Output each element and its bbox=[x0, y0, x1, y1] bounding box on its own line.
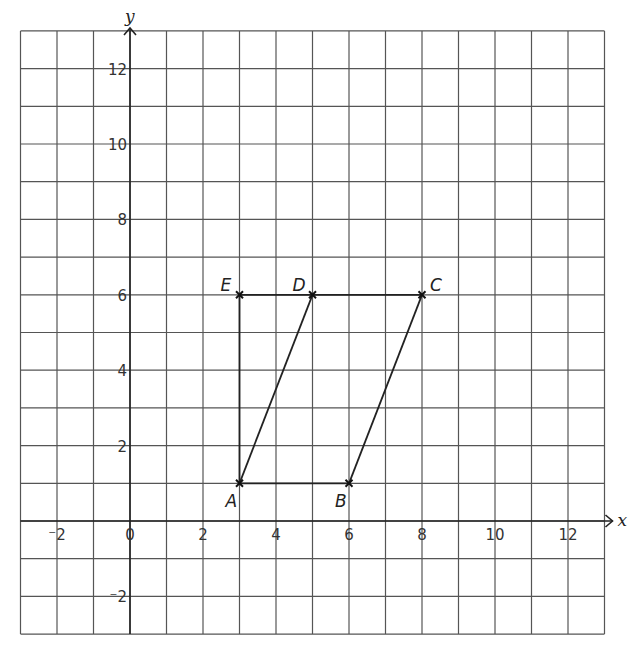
x-tick-label: 12 bbox=[558, 526, 577, 544]
coordinate-grid: xy ⁻2024681012⁻224681012 ABCDE bbox=[0, 0, 628, 646]
point-markers: ABCDE bbox=[221, 275, 443, 512]
y-tick-label: 10 bbox=[108, 136, 127, 154]
x-tick-label: 10 bbox=[485, 526, 504, 544]
x-tick-label: 8 bbox=[417, 526, 427, 544]
y-tick-label: 12 bbox=[108, 61, 127, 79]
x-axis-label: x bbox=[618, 510, 628, 530]
x-tick-label: 4 bbox=[271, 526, 281, 544]
grid-lines bbox=[21, 31, 605, 634]
point-label-E: E bbox=[221, 275, 232, 295]
x-tick-label: 0 bbox=[125, 526, 135, 544]
y-axis-label: y bbox=[124, 6, 135, 26]
x-tick-label: ⁻2 bbox=[48, 526, 65, 544]
point-label-C: C bbox=[430, 275, 442, 295]
y-tick-label: 6 bbox=[117, 287, 127, 305]
x-tick-label: 2 bbox=[198, 526, 208, 544]
y-tick-label: 4 bbox=[117, 362, 127, 380]
point-label-A: A bbox=[225, 491, 238, 511]
point-label-D: D bbox=[293, 275, 306, 295]
shape bbox=[240, 295, 423, 484]
y-tick-label: 8 bbox=[117, 211, 127, 229]
x-tick-label: 6 bbox=[344, 526, 354, 544]
point-label-B: B bbox=[335, 491, 347, 511]
y-tick-label: ⁻2 bbox=[110, 588, 127, 606]
axes: xy bbox=[21, 6, 628, 634]
y-tick-label: 2 bbox=[117, 438, 127, 456]
